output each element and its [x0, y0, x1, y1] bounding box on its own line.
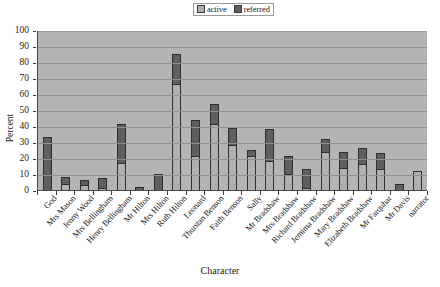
bar-stack[interactable]	[358, 148, 367, 190]
bar-segment-referred[interactable]	[43, 137, 52, 190]
bar-stack[interactable]	[191, 120, 200, 190]
y-axis-tick	[33, 47, 36, 48]
y-axis-tick-label: 20	[20, 154, 30, 164]
bar-segment-active[interactable]	[376, 169, 385, 190]
bar-stack[interactable]	[172, 54, 181, 190]
bar-segment-active[interactable]	[117, 163, 126, 190]
gridline	[38, 127, 427, 128]
bar-segment-active[interactable]	[210, 124, 219, 190]
bar-segment-referred[interactable]	[265, 129, 274, 161]
gridline	[38, 111, 427, 112]
x-axis-title: Character	[0, 265, 440, 276]
bar-stack[interactable]	[61, 177, 70, 190]
bar-stack[interactable]	[43, 137, 52, 190]
bar-stack[interactable]	[247, 150, 256, 190]
gridline	[38, 63, 427, 64]
gridline	[38, 95, 427, 96]
x-axis-labels: GodMrs MasonJenny WoodMrs BellinghamHenr…	[37, 194, 427, 264]
y-axis-tick-label: 70	[20, 74, 30, 84]
gridline	[38, 79, 427, 80]
bar-segment-active[interactable]	[228, 145, 237, 190]
bar-segment-active[interactable]	[61, 184, 70, 190]
y-axis-tick-label: 30	[20, 138, 30, 148]
bar-stack[interactable]	[302, 169, 311, 190]
legend-swatch-referred-icon	[234, 5, 242, 13]
y-axis-tick	[33, 143, 36, 144]
legend-label-active: active	[207, 5, 227, 14]
bar-segment-active[interactable]	[413, 171, 422, 190]
y-axis-tick-label: 90	[20, 42, 30, 52]
legend-swatch-active-icon	[197, 5, 205, 13]
y-axis-tick	[33, 191, 36, 192]
bar-stack[interactable]	[321, 139, 330, 190]
bar-segment-active[interactable]	[339, 168, 348, 190]
bar-segment-referred[interactable]	[302, 169, 311, 188]
y-axis-title: Percent	[5, 100, 15, 156]
bar-stack[interactable]	[339, 152, 348, 190]
bar-segment-active[interactable]	[321, 152, 330, 190]
y-axis-tick	[33, 159, 36, 160]
bar-segment-referred[interactable]	[135, 187, 144, 190]
bar-segment-active[interactable]	[358, 164, 367, 190]
bar-segment-referred[interactable]	[358, 148, 367, 164]
bar-stack[interactable]	[154, 174, 163, 190]
legend-entry-referred: referred	[234, 5, 270, 14]
legend-entry-active: active	[197, 5, 227, 14]
y-axis-tick	[33, 31, 36, 32]
plot-area	[37, 31, 427, 191]
bar-segment-active[interactable]	[98, 188, 107, 190]
bar-segment-active[interactable]	[191, 156, 200, 190]
bar-stack[interactable]	[284, 156, 293, 190]
y-axis-tick-label: 80	[20, 58, 30, 68]
bar-segment-referred[interactable]	[191, 120, 200, 157]
y-axis-tick	[33, 175, 36, 176]
bar-segment-active[interactable]	[80, 185, 89, 190]
bar-stack[interactable]	[395, 184, 404, 190]
bar-stack[interactable]	[80, 180, 89, 190]
bar-segment-referred[interactable]	[321, 139, 330, 152]
gridline	[38, 47, 427, 48]
y-axis-tick	[33, 79, 36, 80]
bar-stack[interactable]	[135, 187, 144, 190]
bar-segment-referred[interactable]	[395, 184, 404, 190]
bar-chart: active referred Percent 0102030405060708…	[0, 0, 440, 287]
y-axis-tick-label: 0	[24, 186, 29, 196]
gridline	[38, 159, 427, 160]
chart-legend: active referred	[193, 3, 274, 16]
x-axis-tick	[427, 191, 428, 195]
gridline	[38, 175, 427, 176]
bar-stack[interactable]	[413, 171, 422, 190]
bar-segment-referred[interactable]	[376, 153, 385, 169]
bar-segment-active[interactable]	[247, 156, 256, 190]
bar-segment-referred[interactable]	[154, 174, 163, 190]
bar-stack[interactable]	[117, 124, 126, 190]
y-axis-tick	[33, 63, 36, 64]
y-axis-tick-label: 100	[15, 26, 29, 36]
gridline	[38, 143, 427, 144]
y-axis-tick-label: 50	[20, 106, 30, 116]
bar-segment-active[interactable]	[302, 188, 311, 190]
y-axis-tick-label: 10	[20, 170, 30, 180]
y-axis-tick-label: 40	[20, 122, 30, 132]
y-axis: Percent 0102030405060708090100	[0, 31, 33, 191]
y-axis-tick	[33, 127, 36, 128]
y-axis-tick	[33, 95, 36, 96]
gridline	[38, 31, 427, 32]
bar-segment-active[interactable]	[284, 174, 293, 190]
bar-segment-referred[interactable]	[98, 178, 107, 188]
bar-stack[interactable]	[210, 104, 219, 190]
legend-label-referred: referred	[244, 5, 270, 14]
y-axis-tick	[33, 111, 36, 112]
bar-stack[interactable]	[98, 178, 107, 190]
y-axis-tick-label: 60	[20, 90, 30, 100]
bar-segment-referred[interactable]	[210, 104, 219, 125]
